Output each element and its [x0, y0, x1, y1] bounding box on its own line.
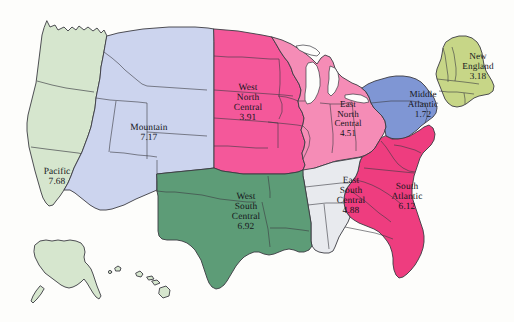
hawaii-islet-niihau [108, 270, 111, 273]
hawaii-island-oahu [136, 271, 143, 277]
map-canvas [0, 0, 514, 322]
region-shape-alaska[interactable] [34, 240, 101, 299]
alaska-aleutian-tail [31, 286, 44, 303]
census-division-choropleth-map: Pacific 7.68 Mountain 7.17 West North Ce… [0, 0, 514, 322]
hawaii-island-kauai [115, 266, 121, 271]
hawaii-island-hawaii [159, 286, 170, 298]
hawaii-island-maui [152, 280, 160, 285]
region-shape-new-england[interactable] [436, 36, 494, 107]
hawaii-island-molokai [147, 276, 154, 280]
hawaii-islands-group[interactable] [108, 266, 170, 298]
